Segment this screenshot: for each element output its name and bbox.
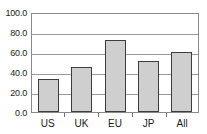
x-axis: US UK EU JP All — [31, 118, 199, 132]
x-cat-label-uk: UK — [65, 118, 99, 132]
y-tick-label-0: 0.0 — [15, 109, 27, 118]
x-axis-ticks — [31, 113, 199, 117]
bars-layer — [32, 14, 198, 112]
y-tick-label-20: 20.0 — [10, 89, 27, 98]
x-cat-label-jp: JP — [132, 118, 166, 132]
y-tick-label-40: 40.0 — [10, 69, 27, 78]
x-tick-1 — [64, 113, 65, 117]
plot-area — [31, 13, 199, 113]
bar-all — [171, 52, 192, 112]
bar-slot-jp — [132, 14, 165, 112]
x-cat-label-eu: EU — [98, 118, 132, 132]
y-axis: 100.0 80.0 60.0 40.0 20.0 0.0 — [0, 0, 30, 134]
x-tick-4 — [166, 113, 167, 117]
bar-eu — [105, 40, 126, 112]
x-tick-3 — [132, 113, 133, 117]
bar-slot-eu — [98, 14, 131, 112]
bar-jp — [138, 61, 159, 112]
y-tick-label-80: 80.0 — [10, 29, 27, 38]
bar-slot-uk — [65, 14, 98, 112]
bar-chart: 100.0 80.0 60.0 40.0 20.0 0.0 — [0, 0, 207, 134]
y-tick-label-60: 60.0 — [10, 49, 27, 58]
x-tick-2 — [98, 113, 99, 117]
bar-slot-all — [165, 14, 198, 112]
x-cat-label-us: US — [31, 118, 65, 132]
bar-slot-us — [32, 14, 65, 112]
bar-us — [38, 79, 59, 112]
bar-uk — [71, 67, 92, 112]
x-cat-label-all: All — [165, 118, 199, 132]
y-tick-label-100: 100.0 — [5, 9, 27, 18]
